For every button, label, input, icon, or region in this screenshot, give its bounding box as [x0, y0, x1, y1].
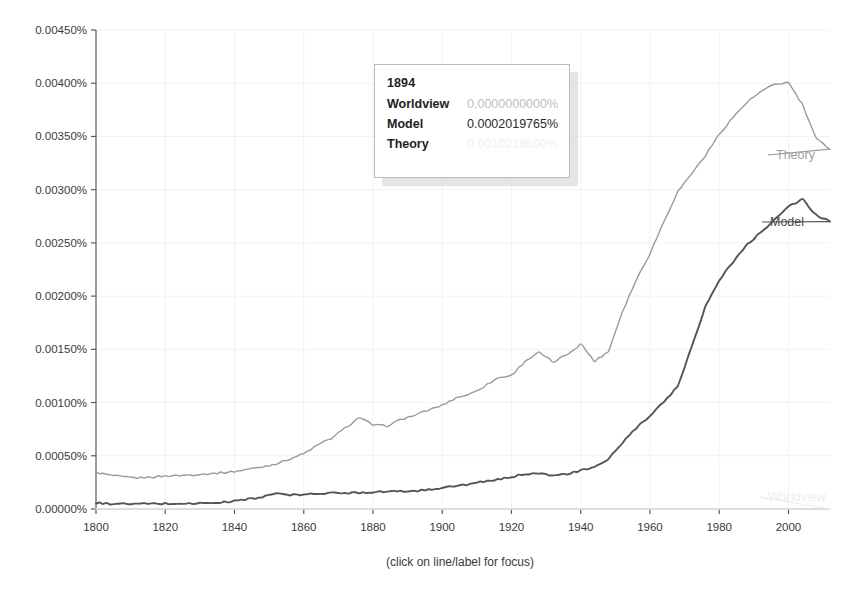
- x-axis-tick-label: 1900: [429, 521, 455, 533]
- hover-tooltip: 1894 Worldview 0.0000000000% Model 0.000…: [374, 64, 570, 178]
- y-axis-tick-label: 0.00250%: [35, 237, 87, 249]
- x-axis-tick-label: 1860: [291, 521, 317, 533]
- x-axis-tick-label: 1820: [152, 521, 178, 533]
- y-axis-tick-labels: 0.00450%0.00400%0.00350%0.00300%0.00250%…: [35, 24, 87, 515]
- x-axis-tick-label: 1980: [706, 521, 732, 533]
- x-axis-tick-label: 2000: [776, 521, 802, 533]
- y-axis-tick-label: 0.00050%: [35, 450, 87, 462]
- y-axis-tick-label: 0.00450%: [35, 24, 87, 36]
- tooltip-series-name-worldview: Worldview: [387, 97, 467, 111]
- series-label-model[interactable]: Model: [770, 215, 804, 229]
- tooltip-series-value-model: 0.0002019765%: [467, 117, 558, 131]
- x-axis-tick-label: 1920: [499, 521, 525, 533]
- y-axis-tick-label: 0.00150%: [35, 343, 87, 355]
- x-axis-tick-label: 1840: [222, 521, 248, 533]
- tooltip-series-name-theory: Theory: [387, 137, 467, 151]
- tooltip-year: 1894: [387, 76, 557, 90]
- y-axis-tick-label: 0.00100%: [35, 397, 87, 409]
- x-axis-tick-label: 1940: [568, 521, 594, 533]
- x-axis-tick-labels: 1800182018401860188019001920194019601980…: [83, 521, 801, 533]
- x-axis-tick-label: 1880: [360, 521, 386, 533]
- x-axis-tick-label: 1800: [83, 521, 109, 533]
- series-label-theory[interactable]: Theory: [776, 148, 816, 162]
- ngram-chart: 0.00450%0.00400%0.00350%0.00300%0.00250%…: [0, 0, 841, 599]
- tooltip-row-model: Model 0.0002019765%: [387, 117, 557, 131]
- tooltip-series-name-model: Model: [387, 117, 467, 131]
- y-axis-tick-label: 0.00300%: [35, 184, 87, 196]
- tooltip-row-theory: Theory 0.0010218590%: [387, 137, 557, 151]
- y-axis-tick-label: 0.00000%: [35, 503, 87, 515]
- series-label-worldview[interactable]: Worldview: [768, 490, 826, 504]
- tooltip-series-value-worldview: 0.0000000000%: [467, 97, 558, 111]
- x-axis-tick-label: 1960: [637, 521, 663, 533]
- y-axis-tick-label: 0.00400%: [35, 77, 87, 89]
- y-axis-tick-label: 0.00200%: [35, 290, 87, 302]
- y-axis-tick-label: 0.00350%: [35, 130, 87, 142]
- tooltip-row-worldview: Worldview 0.0000000000%: [387, 97, 557, 111]
- tooltip-series-value-theory: 0.0010218590%: [467, 137, 558, 151]
- series-inline-labels[interactable]: TheoryModelWorldview: [760, 148, 830, 509]
- chart-caption: (click on line/label for focus): [386, 555, 534, 569]
- series-line-model[interactable]: [96, 199, 830, 505]
- y-axis-ticks: [91, 30, 96, 509]
